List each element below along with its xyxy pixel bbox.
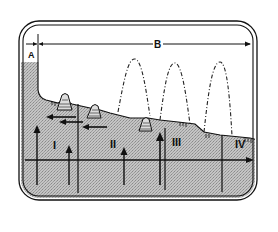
arrow-b-right-icon [245,42,251,47]
zone-label-1: I [53,139,56,151]
arrow-a-right-icon [33,42,37,46]
zone-label-3: III [172,136,181,148]
cross-section-diagram: A B [0,0,278,232]
diagram-stage: A B [0,0,278,232]
label-a: A [28,50,35,60]
zone-label-2: II [110,138,116,150]
dashed-arc-1 [118,59,150,116]
dashed-arc-3 [204,62,232,136]
dashed-arc-2 [160,63,190,124]
label-b: B [154,39,161,50]
volcano-1-icon [57,94,72,111]
zone-label-4: IV [235,138,246,150]
